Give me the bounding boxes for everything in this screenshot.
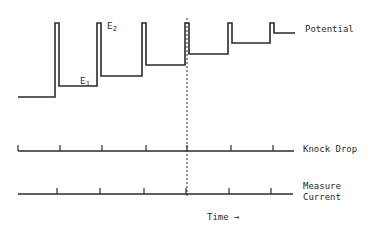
measure-current-timeline (18, 188, 293, 194)
potential-label: Potential (305, 24, 354, 35)
e1-label: E1 (80, 76, 90, 89)
e2-label: E2 (107, 21, 117, 34)
measure-current-label-line1: Measure (303, 181, 341, 192)
potential-waveform (18, 23, 295, 97)
knock-drop-label: Knock Drop (303, 144, 357, 155)
right-arrow-icon: → (234, 212, 239, 222)
knock-drop-timeline (18, 145, 294, 151)
measure-current-label-line2: Current (303, 192, 341, 203)
time-axis-label: Time → (207, 212, 240, 223)
